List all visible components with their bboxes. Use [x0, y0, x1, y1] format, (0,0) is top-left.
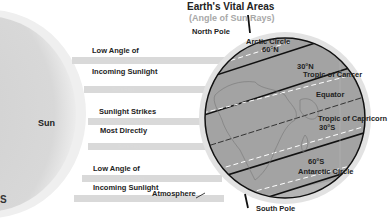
tropic-capricorn-label: Tropic of Capricorn	[318, 114, 387, 123]
atmosphere-label: Atmosphere	[152, 189, 196, 198]
low-angle-top-line2: Incoming Sunlight	[92, 67, 157, 76]
diagram-subtitle: (Angle of Sun Rays)	[189, 13, 275, 23]
lat-60s-label: 60°S	[308, 157, 324, 166]
south-pole-label: South Pole	[256, 204, 295, 213]
sun-label: Sun	[38, 118, 55, 128]
ray-label-4: Sun's Rays	[118, 144, 141, 149]
ray-label-5: Sun's Rays	[122, 176, 145, 181]
north-pole-label: North Pole	[192, 27, 230, 36]
direct-line2: Most Directly	[100, 126, 147, 135]
sun-shape	[0, 10, 86, 218]
low-angle-top-line1: Low Angle of	[92, 46, 139, 55]
low-angle-bottom-line2: Incoming Sunlight	[93, 183, 158, 192]
low-angle-bottom-line1: Low Angle of	[93, 164, 140, 173]
ray-label-1: Sun's Rays	[125, 58, 148, 63]
lat-30s-label: 30°S	[319, 123, 335, 132]
tropic-cancer-label: Tropic of Cancer	[303, 70, 362, 79]
south-pole-pointer	[245, 194, 248, 208]
diagram-title: Earth's Vital Areas	[187, 1, 274, 12]
edge-text-fragment: S	[0, 194, 7, 205]
lat-60n-label: 60°N	[262, 45, 279, 54]
ray-label-3: Sun's Rays	[118, 119, 141, 124]
antarctic-circle-label: Antarctic Circle	[298, 167, 353, 176]
equator-label: Equator	[316, 90, 344, 99]
ray-label-2: Sun's Rays	[112, 87, 135, 92]
direct-line1: Sunlight Strikes	[99, 107, 156, 116]
